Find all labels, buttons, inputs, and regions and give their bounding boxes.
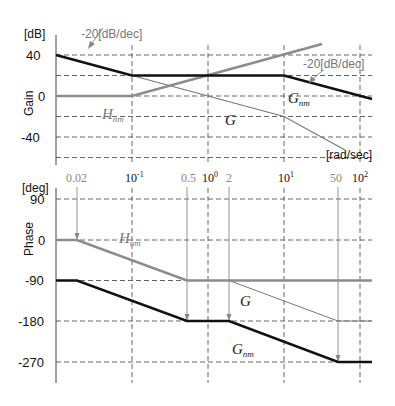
label-Gnm-gain: Gnm — [288, 90, 310, 108]
phase-tick-90: 90 — [30, 192, 44, 207]
gain-tick-neg40: -40 — [21, 130, 40, 145]
phase-axis-label: Phase — [22, 222, 36, 256]
break-2: 2 — [226, 171, 232, 185]
break-50: 50 — [330, 171, 342, 185]
gain-panel: [dB] -20[dB/dec] -20[dB/dec] 40 0 -40 Ga… — [21, 27, 372, 165]
freq-labels: 0.02 0.5 2 50 10-1 100 101 102 — [66, 170, 368, 185]
gain-tick-40: 40 — [26, 48, 40, 63]
gain-tick-0: 0 — [38, 89, 45, 104]
gain-unit-label: [dB] — [24, 27, 45, 41]
break-0.02: 0.02 — [66, 171, 87, 185]
phase-tick-neg180: -180 — [18, 314, 44, 329]
bode-plot: [dB] -20[dB/dec] -20[dB/dec] 40 0 -40 Ga… — [0, 0, 395, 406]
phase-tick-neg270: -270 — [18, 355, 44, 370]
freq-unit-label: [rad/sec] — [326, 148, 372, 162]
gain-axis-label: Gain — [22, 91, 36, 116]
label-G-gain: G — [225, 112, 236, 128]
phase-line-Hnm — [56, 240, 372, 281]
label-Hnm-gain: Hnm — [101, 106, 124, 124]
slope-annotation-left: -20[dB/dec] — [81, 27, 142, 41]
decade-10-2: 102 — [352, 170, 368, 185]
decade-10-neg1: 10-1 — [125, 170, 144, 185]
decade-10-1: 101 — [278, 170, 294, 185]
label-G-phase: G — [240, 293, 251, 309]
decade-10-0: 100 — [202, 170, 218, 185]
label-Gnm-phase: Gnm — [232, 341, 254, 359]
slope-arrow-right — [313, 71, 322, 79]
label-Hnm-phase: Hnm — [118, 230, 141, 248]
gain-line-Hnm — [56, 44, 322, 96]
phase-tick-neg90: -90 — [25, 273, 44, 288]
break-0.5: 0.5 — [181, 171, 196, 185]
slope-annotation-right: -20[dB/dec] — [303, 57, 364, 71]
phase-panel: [deg] 90 0 -90 -180 -270 Phase Hnm G Gnm — [18, 181, 372, 383]
phase-tick-0: 0 — [38, 233, 45, 248]
